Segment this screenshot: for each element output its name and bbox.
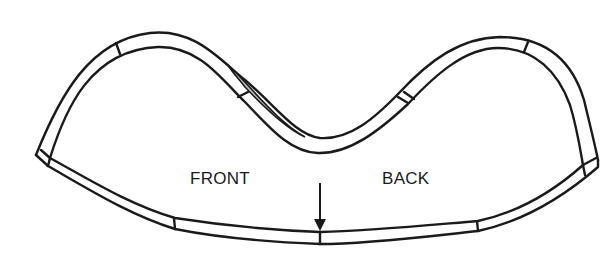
band-outline: [0, 0, 610, 263]
divider-left-corner: [48, 158, 50, 166]
divider-right-corner: [583, 165, 585, 175]
divider-right-top: [524, 42, 528, 52]
divider-bottom-right: [477, 221, 478, 231]
center-arrow-icon: [314, 183, 326, 231]
divider-back-shoulder-b: [404, 92, 414, 99]
front-label: FRONT: [190, 170, 250, 187]
diagram-canvas: FRONT BACK: [0, 0, 610, 263]
back-label: BACK: [382, 170, 430, 187]
divider-bottom-left: [174, 218, 175, 229]
divider-back-shoulder-a: [398, 97, 408, 103]
outer-bottom-edge: [36, 155, 598, 244]
divider-front-shoulder: [238, 92, 248, 97]
divider-left-top: [116, 43, 120, 54]
inner-top-edge: [50, 47, 583, 165]
